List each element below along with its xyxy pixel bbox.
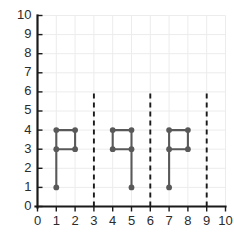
- x-axis-tick-label: 0: [34, 213, 41, 228]
- chart-background: [0, 0, 234, 238]
- x-axis-tick-label: 8: [184, 213, 191, 228]
- data-point-marker: [129, 185, 135, 191]
- data-point-marker: [53, 185, 59, 191]
- data-point-marker: [72, 146, 78, 152]
- y-axis-tick-label: 5: [24, 102, 31, 117]
- y-axis-tick-label: 2: [24, 160, 31, 175]
- y-axis-tick-label: 6: [24, 83, 31, 98]
- data-point-marker: [166, 127, 172, 133]
- data-point-marker: [53, 146, 59, 152]
- data-point-marker: [110, 127, 116, 133]
- y-axis-tick-label: 1: [24, 179, 31, 194]
- data-point-marker: [129, 127, 135, 133]
- chart-canvas: 012345678910012345678910: [0, 0, 234, 238]
- data-point-marker: [166, 146, 172, 152]
- data-point-marker: [129, 146, 135, 152]
- data-point-marker: [185, 127, 191, 133]
- y-axis-tick-label: 0: [24, 198, 31, 213]
- y-axis-tick-label: 4: [24, 122, 31, 137]
- chart-container: 012345678910012345678910: [0, 0, 234, 238]
- x-axis-tick-label: 3: [90, 213, 97, 228]
- x-axis-tick-label: 5: [128, 213, 135, 228]
- data-point-marker: [166, 185, 172, 191]
- data-point-marker: [110, 146, 116, 152]
- x-axis-tick-label: 10: [218, 213, 232, 228]
- x-axis-tick-label: 2: [71, 213, 78, 228]
- x-axis-tick-label: 6: [147, 213, 154, 228]
- data-point-marker: [72, 127, 78, 133]
- x-axis-tick-label: 4: [109, 213, 116, 228]
- x-axis-tick-label: 9: [203, 213, 210, 228]
- y-axis-tick-label: 3: [24, 141, 31, 156]
- x-axis-tick-label: 1: [53, 213, 60, 228]
- y-axis-tick-label: 8: [24, 45, 31, 60]
- x-axis-tick-label: 7: [165, 213, 172, 228]
- y-axis-tick-label: 7: [24, 64, 31, 79]
- data-point-marker: [53, 127, 59, 133]
- y-axis-tick-label: 9: [24, 26, 31, 41]
- data-point-marker: [185, 146, 191, 152]
- y-axis-tick-label: 10: [17, 7, 31, 22]
